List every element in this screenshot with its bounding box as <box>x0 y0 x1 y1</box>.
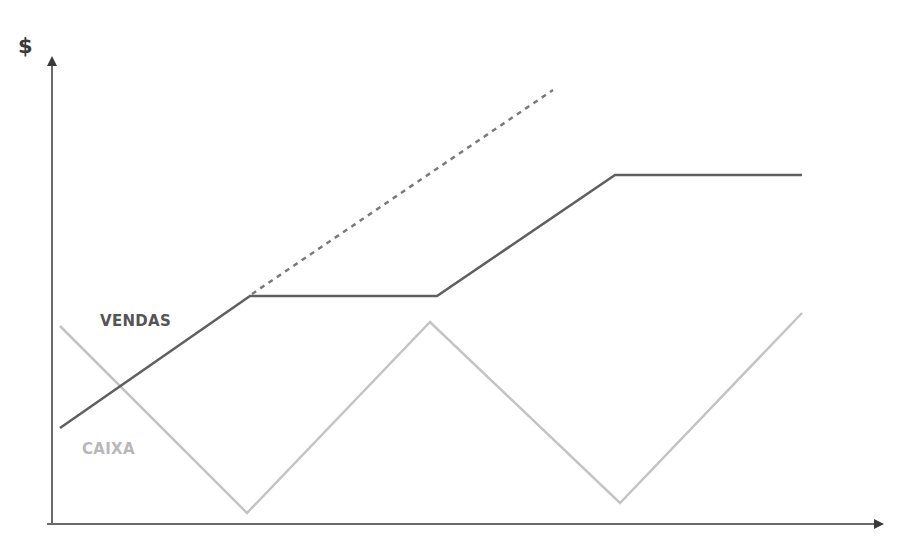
vendas-projection-line <box>252 90 553 294</box>
chart-canvas <box>0 0 908 556</box>
vendas-label: VENDAS <box>100 312 171 330</box>
y-axis-label: $ <box>18 34 33 58</box>
caixa-label: CAIXA <box>82 440 135 458</box>
vendas-line <box>60 175 802 428</box>
caixa-line <box>60 313 802 513</box>
